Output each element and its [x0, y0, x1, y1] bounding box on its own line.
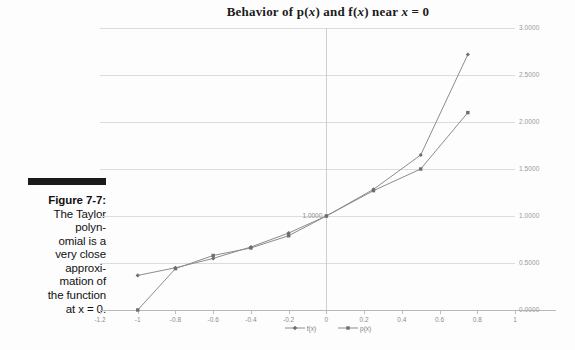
chart-title-mid: ) and f(: [315, 4, 357, 19]
caption-line: polyn-: [28, 221, 106, 235]
data-point-marker: [466, 52, 470, 56]
x-tick-label: -1: [123, 316, 153, 323]
x-tick-mark: [213, 311, 214, 314]
legend-marker-icon: [338, 324, 358, 332]
x-tick-label: -0.8: [160, 316, 190, 323]
caption-title: Figure 7-7:: [28, 194, 106, 208]
data-point-marker: [174, 267, 177, 270]
x-axis-line: [100, 310, 556, 311]
data-point-marker: [466, 111, 469, 114]
x-tick-mark: [289, 311, 290, 314]
data-point-marker: [372, 189, 375, 192]
series-line-px: [138, 113, 468, 310]
x-tick-label: -0.6: [198, 316, 228, 323]
x-tick-label: 1: [500, 316, 530, 323]
data-point-marker: [419, 167, 422, 170]
data-point-marker: [136, 308, 139, 311]
chart-title-pre: Behavior of p(: [227, 4, 309, 19]
caption-line: the function: [28, 289, 106, 303]
x-tick-label: 0.8: [462, 316, 492, 323]
data-point-marker: [287, 234, 290, 237]
chart-panel: Behavior of p(x) and f(x) near x = 0 0.0…: [100, 28, 556, 322]
chart-title-post: = 0: [408, 4, 429, 19]
caption-rule: [28, 178, 106, 185]
plot-area: 0.00000.50001.00001.50002.00002.50003.00…: [100, 28, 556, 310]
caption-line: approxi-: [28, 262, 106, 276]
figure-caption: Figure 7-7: The Taylor polyn- omial is a…: [28, 178, 106, 316]
x-tick-label: 0.4: [387, 316, 417, 323]
x-tick-label: 0: [311, 316, 341, 323]
legend-marker-icon: [285, 324, 305, 332]
x-tick-mark: [364, 311, 365, 314]
x-tick-mark: [100, 311, 101, 314]
x-tick-mark: [440, 311, 441, 314]
x-tick-mark: [402, 311, 403, 314]
x-tick-mark: [175, 311, 176, 314]
legend-label: p(x): [360, 325, 371, 332]
legend-entry-fx[interactable]: f(x): [285, 324, 316, 332]
caption-line: omial is a: [28, 235, 106, 249]
x-tick-mark: [477, 311, 478, 314]
legend-entry-px[interactable]: p(x): [338, 324, 371, 332]
caption-line: very close: [28, 248, 106, 262]
chart-title: Behavior of p(x) and f(x) near x = 0: [100, 4, 556, 20]
x-tick-mark: [326, 311, 327, 314]
caption-line: The Taylor: [28, 208, 106, 222]
series-line-fx: [138, 54, 468, 275]
caption-body: The Taylor polyn- omial is a very close …: [28, 208, 106, 317]
caption-line: mation of: [28, 275, 106, 289]
x-tick-label: 0.6: [425, 316, 455, 323]
x-tick-mark: [515, 311, 516, 314]
x-tick-label: -1.2: [85, 316, 115, 323]
chart-title-mid2: ) near: [364, 4, 401, 19]
x-tick-label: -0.4: [236, 316, 266, 323]
data-point-marker: [249, 246, 252, 249]
data-point-marker: [211, 254, 214, 257]
caption-line: at x = 0.: [28, 303, 106, 317]
data-point-marker: [136, 273, 140, 277]
figure-root: Figure 7-7: The Taylor polyn- omial is a…: [0, 0, 575, 350]
x-tick-mark: [251, 311, 252, 314]
x-tick-label: 0.2: [349, 316, 379, 323]
chart-legend: f(x)p(x): [100, 324, 556, 332]
x-tick-label: -0.2: [274, 316, 304, 323]
data-point-marker: [325, 214, 328, 217]
series-plot: [100, 28, 556, 310]
legend-label: f(x): [307, 325, 316, 332]
